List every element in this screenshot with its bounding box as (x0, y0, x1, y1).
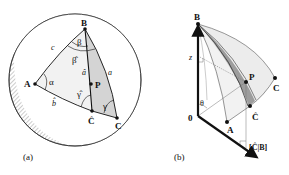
point-a (33, 82, 37, 86)
panel-b: B P C Ĉ A 0 z θ [Ĉ|B] (b) (174, 12, 280, 162)
label-c-hat: Ĉ (252, 112, 259, 122)
label-c: C (115, 121, 122, 131)
label-b: B (194, 12, 200, 22)
point-a (225, 120, 229, 124)
label-angle-alpha: α (49, 77, 54, 87)
point-c-hat (90, 109, 94, 113)
label-side-c: c (51, 43, 55, 52)
point-p (244, 80, 248, 84)
label-side-a: a (108, 68, 112, 77)
label-angle-beta: β (77, 37, 82, 47)
point-c-hat (248, 104, 252, 108)
point-p (89, 82, 93, 86)
label-origin: 0 (188, 113, 193, 123)
label-projection: [Ĉ|B] (249, 142, 268, 152)
panel-a: A B C Ĉ P c a â b̂ α β β̂ γ̂ γ (a) (0, 0, 141, 170)
label-c: C (273, 83, 280, 93)
label-angle-gamma: γ (102, 101, 107, 111)
label-c-hat: Ĉ (88, 116, 95, 126)
point-b (196, 22, 200, 26)
label-a: A (24, 79, 31, 89)
label-side-b-hat: b̂ (52, 97, 56, 108)
label-b: B (81, 18, 87, 28)
label-side-a-hat: â (82, 68, 86, 77)
label-theta: θ (200, 99, 204, 108)
label-z: z (188, 53, 193, 62)
right-angle-mark-proj (240, 141, 246, 145)
point-c (115, 116, 119, 120)
caption-a: (a) (23, 152, 33, 162)
label-p: P (249, 72, 255, 82)
point-c (273, 76, 277, 80)
label-a: A (227, 125, 234, 135)
label-p: P (95, 80, 101, 90)
caption-b: (b) (174, 152, 185, 162)
spherical-triangle-figure: A B C Ĉ P c a â b̂ α β β̂ γ̂ γ (a) (0, 0, 289, 175)
